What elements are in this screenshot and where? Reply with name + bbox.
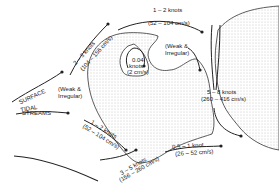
label-channel-speed: 5 – 8 knots: [207, 89, 236, 96]
label-north-speed: 1 – 2 knots: [153, 7, 182, 14]
flow-channel-a: [211, 25, 214, 90]
label-north-metric: (52 – 104 cm/s): [148, 20, 190, 27]
label-streams: STREAMS: [22, 110, 51, 117]
label-channel-metric: (260 – 416 cm/s): [201, 96, 246, 103]
label-weak-west-1: (Weak &: [58, 86, 81, 93]
east-landmass: [215, 6, 279, 150]
south-shoreline: [14, 156, 98, 181]
label-weak-east-1: (Weak &: [165, 43, 188, 50]
label-weak-east-2: Irregular): [165, 50, 189, 57]
label-weak-west-2: Irregular): [58, 93, 82, 100]
label-eddy-metric: (2 cm/s): [127, 69, 149, 76]
tidal-stream-diagram: 2 – 3 knots (104 – 156 cm/s) SURFACE TID…: [0, 0, 279, 191]
